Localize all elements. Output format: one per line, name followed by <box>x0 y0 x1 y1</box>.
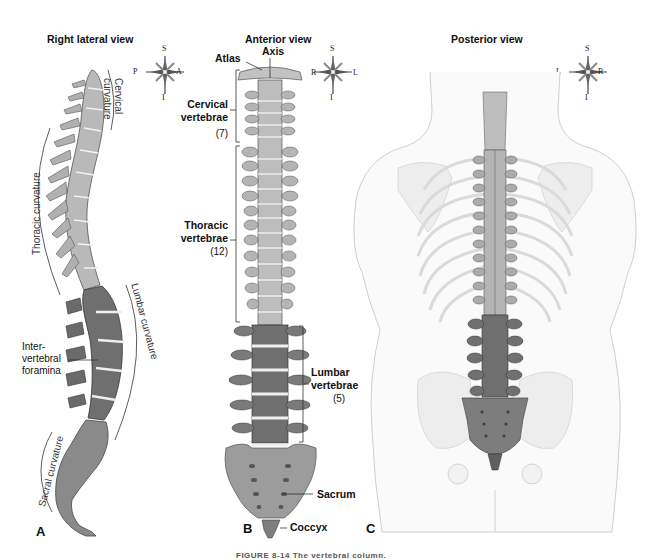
panel-c-letter: C <box>366 521 375 536</box>
figure-caption: FIGURE 8-14 The vertebral column. <box>236 551 386 560</box>
